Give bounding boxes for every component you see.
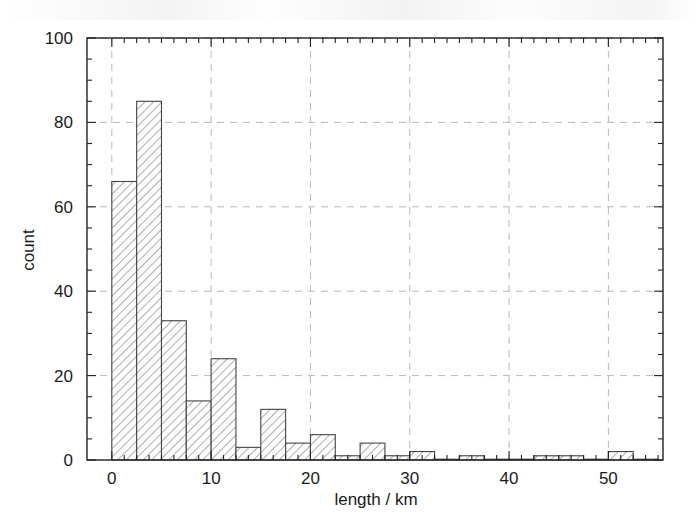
x-axis-title: length / km <box>334 490 417 509</box>
x-tick-label: 10 <box>202 469 221 488</box>
y-tick-label: 60 <box>54 198 73 217</box>
histogram-bar <box>161 321 186 460</box>
chart-background <box>0 0 698 532</box>
histogram-bar <box>112 181 137 460</box>
y-tick-label: 20 <box>54 367 73 386</box>
chart-canvas: 01020304050 020406080100 length / km cou… <box>0 0 698 532</box>
histogram-bar <box>186 401 211 460</box>
histogram-bar <box>137 101 162 460</box>
histogram-bar <box>211 359 236 460</box>
x-tick-label: 50 <box>599 469 618 488</box>
x-tick-label: 40 <box>500 469 519 488</box>
y-tick-label: 80 <box>54 113 73 132</box>
x-tick-label: 20 <box>301 469 320 488</box>
histogram-figure: 01020304050 020406080100 length / km cou… <box>0 0 698 532</box>
histogram-bar <box>261 409 286 460</box>
x-tick-label: 30 <box>400 469 419 488</box>
y-axis-title: count <box>19 229 38 271</box>
x-tick-label: 0 <box>107 469 116 488</box>
y-tick-label: 0 <box>64 451 73 470</box>
y-tick-label: 40 <box>54 282 73 301</box>
y-tick-label: 100 <box>45 29 73 48</box>
